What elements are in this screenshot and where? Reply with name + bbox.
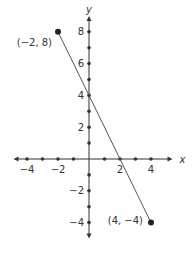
y-axis-arrow-bottom — [87, 234, 92, 239]
x-tick-dot — [149, 157, 153, 161]
x-axis-arrow-left — [14, 157, 19, 162]
x-tick-dot — [56, 157, 60, 161]
data-point-label: (4, −4) — [108, 215, 143, 226]
y-tick-dot — [87, 62, 91, 66]
data-point-label: (−2, 8) — [17, 37, 52, 48]
x-tick-dot — [72, 157, 76, 161]
y-axis-label: y — [85, 4, 93, 15]
x-tick-label: −4 — [20, 164, 35, 175]
data-point — [148, 220, 154, 226]
y-tick-dot — [87, 141, 91, 145]
x-tick-label: 2 — [117, 164, 123, 175]
axes — [14, 16, 173, 239]
y-tick-label: −2 — [69, 185, 84, 196]
y-tick-label: −4 — [69, 217, 84, 228]
tick-labels: −4−2248642−2−4 — [20, 26, 155, 228]
x-tick-dot — [103, 157, 107, 161]
y-tick-label: 2 — [78, 122, 84, 133]
y-tick-dot — [87, 205, 91, 209]
y-tick-label: 6 — [78, 58, 84, 69]
x-tick-label: −2 — [51, 164, 66, 175]
y-axis-arrow-top — [87, 16, 92, 21]
y-tick-dot — [87, 30, 91, 34]
coordinate-plane: −4−2248642−2−4 (−2, 8)(4, −4) x y — [0, 0, 194, 253]
y-tick-dot — [87, 221, 91, 225]
y-tick-label: 4 — [78, 90, 84, 101]
x-tick-dot — [41, 157, 45, 161]
y-tick-dot — [87, 189, 91, 193]
series: (−2, 8)(4, −4) — [17, 29, 154, 226]
y-tick-label: 8 — [78, 26, 84, 37]
data-point — [55, 29, 61, 35]
y-tick-dot — [87, 173, 91, 177]
y-tick-dot — [87, 125, 91, 129]
y-tick-dot — [87, 78, 91, 82]
x-axis-label: x — [179, 154, 186, 165]
y-tick-dot — [87, 110, 91, 114]
x-tick-dot — [134, 157, 138, 161]
y-tick-dot — [87, 46, 91, 50]
x-axis-arrow-right — [168, 157, 173, 162]
x-tick-label: 4 — [148, 164, 154, 175]
x-tick-dot — [25, 157, 29, 161]
